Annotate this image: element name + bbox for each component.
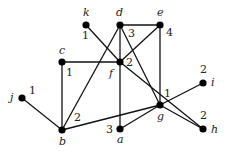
node-value-e: 4 [166,26,173,39]
node-g [156,101,163,108]
node-value-f: 2 [126,56,133,69]
node-label-h: h [211,123,218,136]
nodes: k1d3e4c1f2g1i2h2a3b2j1 [7,6,218,148]
node-value-g: 1 [164,87,171,100]
node-b [58,126,65,133]
node-label-c: c [59,44,65,57]
node-value-a: 3 [106,123,113,136]
node-label-k: k [83,6,90,19]
node-c [58,58,65,65]
node-value-j: 1 [29,84,36,97]
node-label-b: b [59,135,66,148]
node-i [199,79,206,86]
node-label-j: j [7,91,14,104]
node-value-k: 1 [82,29,89,42]
node-value-c: 1 [66,66,73,79]
edge-g-h [160,105,203,129]
node-a [116,125,123,132]
node-k [82,21,89,28]
node-d [116,21,123,28]
node-f [116,58,123,65]
node-label-d: d [116,6,123,19]
edge-b-j [22,98,62,130]
node-value-h: 2 [200,109,207,122]
node-label-i: i [211,76,215,89]
node-e [156,21,163,28]
node-label-g: g [157,110,164,123]
edge-a-g [120,105,160,129]
node-value-i: 2 [200,63,207,76]
node-label-a: a [117,133,124,146]
node-label-e: e [157,6,164,19]
node-j [18,94,25,101]
node-label-f: f [108,67,115,80]
node-h [199,125,206,132]
node-value-b: 2 [74,111,81,124]
graph-diagram: k1d3e4c1f2g1i2h2a3b2j1 [0,0,229,152]
node-value-d: 3 [128,27,135,40]
